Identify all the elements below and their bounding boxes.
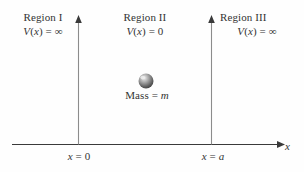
sphere-icon [139,74,154,89]
left-wall-arrowhead [75,15,82,23]
right-wall-arrowhead [208,15,215,23]
x-axis-arrowhead [277,141,285,148]
x-axis-label: x [285,140,290,153]
region-iii-label: Region III [220,11,294,24]
region-i-label: Region I [12,11,74,24]
infinite-square-well-figure: Region I V(x) = ∞ Region II V(x) = 0 Reg… [0,0,304,172]
region-ii-potential-label: V(x) = 0 [108,25,182,38]
x-tick-a-label: x = a [190,150,236,163]
region-i-potential-label: V(x) = ∞ [12,25,74,38]
region-ii-label: Region II [108,11,182,24]
sphere-highlight-icon [140,76,145,80]
particle-mass-label: Mass = m [112,89,182,102]
region-iii-potential-label: V(x) = ∞ [220,25,294,38]
x-tick-zero-label: x = 0 [56,150,102,163]
